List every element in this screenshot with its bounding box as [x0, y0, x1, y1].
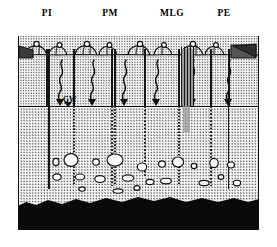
- basal-black-fill: [18, 197, 259, 230]
- frame-right-edge: [258, 36, 259, 230]
- basal-layer: [18, 36, 259, 230]
- column-label-pm: PM: [102, 8, 118, 18]
- column-label-pi: PI: [42, 8, 52, 18]
- cross-section-figure: PI PM MLG PE: [0, 0, 277, 247]
- water-table-triangle-icon: [64, 102, 72, 107]
- deposit-body: [18, 36, 259, 230]
- column-label-pe: PE: [218, 8, 231, 18]
- frame-left-edge: [18, 36, 19, 230]
- column-label-mlg: MLG: [160, 8, 184, 18]
